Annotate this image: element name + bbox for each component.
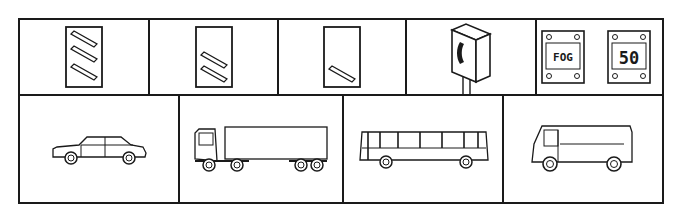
cell-bus — [344, 96, 504, 202]
countdown-marker-2-icon — [194, 25, 234, 89]
sign-panel: FOG 50 — [18, 18, 664, 204]
cell-van — [504, 96, 662, 202]
cell-emergency-telephone — [407, 20, 537, 94]
svg-text:FOG: FOG — [553, 51, 573, 64]
bus-icon — [356, 126, 490, 172]
cell-countdown-1 — [279, 20, 407, 94]
top-row: FOG 50 — [20, 20, 662, 96]
cell-car — [20, 96, 180, 202]
cell-countdown-2 — [150, 20, 279, 94]
countdown-marker-3-icon — [64, 25, 104, 89]
speed-50-sign: 50 — [608, 31, 650, 83]
emergency-telephone-icon — [446, 22, 496, 94]
car-icon — [49, 131, 149, 167]
fog-speed-signs-icon: FOG 50 — [540, 29, 660, 85]
cell-articulated-lorry — [180, 96, 344, 202]
lorry-icon — [191, 123, 331, 175]
cell-fog-speed-signs: FOG 50 — [537, 20, 662, 94]
bottom-row — [20, 96, 662, 202]
countdown-marker-1-icon — [322, 25, 362, 89]
van-icon — [528, 122, 638, 176]
svg-text:50: 50 — [618, 48, 638, 68]
cell-countdown-3 — [20, 20, 150, 94]
fog-sign: FOG — [542, 31, 584, 83]
